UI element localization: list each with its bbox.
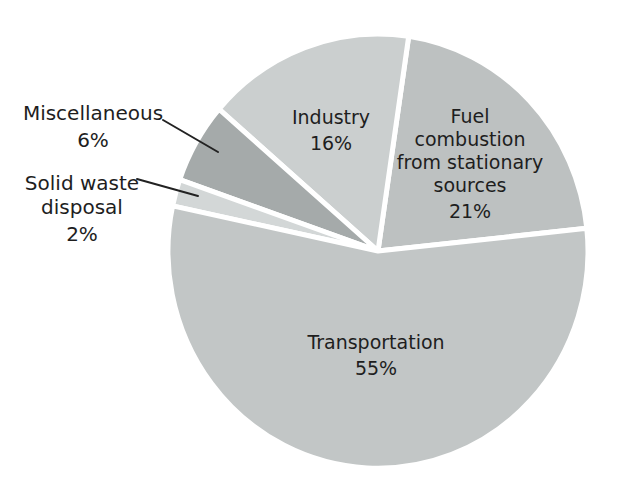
industry-slice-label: Industry 16% [292,106,370,155]
miscellaneous-slice-label: Miscellaneous 6% [23,101,163,152]
slice-label-line: Transportation [307,331,444,354]
slice-label-line: Solid waste [25,171,139,195]
solid-waste-slice-label: Solid waste disposal 2% [25,171,139,246]
slice-percent: 6% [23,128,163,152]
slice-percent: 55% [307,357,444,380]
slice-percent: 21% [397,200,543,223]
slice-label-line: Miscellaneous [23,101,163,125]
pie-wedges [168,34,588,468]
slice-label-line: Fuel [397,105,543,128]
fuel-combustion-slice-label: Fuel combustion from stationary sources … [397,105,543,223]
slice-percent: 16% [292,132,370,155]
slice-label-line: combustion [397,128,543,151]
pie-chart-figure: Fuel combustion from stationary sources … [0,0,618,487]
slice-percent: 2% [25,222,139,246]
slice-label-line: from stationary [397,151,543,174]
transportation-slice-label: Transportation 55% [307,331,444,380]
slice-label-line: disposal [25,195,139,219]
slice-label-line: Industry [292,106,370,129]
slice-label-line: sources [397,174,543,197]
